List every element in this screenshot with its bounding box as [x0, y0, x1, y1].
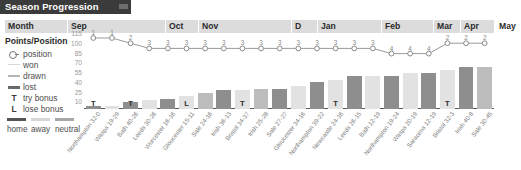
position-point-marker — [165, 46, 170, 51]
venue-label-neutral: neutral — [55, 125, 80, 134]
position-point-marker — [91, 36, 96, 41]
month-label: Feb — [385, 20, 400, 33]
position-point-marker — [370, 46, 375, 51]
position-point-marker — [296, 46, 301, 51]
venue-label-away: away — [31, 125, 50, 134]
position-value-label: 3 — [371, 39, 375, 46]
venue-key: homeawayneutral — [5, 118, 83, 135]
position-value-label: 3 — [241, 39, 245, 46]
position-value-label: 3 — [352, 39, 356, 46]
month-cell-feb: Feb — [381, 20, 434, 33]
month-label: Month — [8, 20, 34, 33]
position-point-marker — [464, 41, 469, 46]
month-label: May — [499, 20, 516, 33]
legend-item-won: won — [5, 60, 83, 70]
position-value-label: 2 — [129, 34, 133, 41]
legend-item-drawn: drawn — [5, 71, 83, 81]
position-point-marker — [352, 46, 357, 51]
position-value-label: 2 — [464, 34, 468, 41]
y-axis-tick-label: 25 — [75, 89, 82, 96]
y-axis-tick-label: 115 — [71, 31, 82, 38]
y-axis-tick-label: 40 — [75, 80, 82, 87]
position-point-marker — [389, 51, 394, 56]
month-cell-month: Month — [5, 20, 67, 33]
month-cell-oct: Oct — [165, 20, 199, 33]
position-point-marker — [259, 46, 264, 51]
position-value-label: 1 — [92, 29, 96, 36]
title-bar-nub — [119, 4, 128, 9]
position-value-label: 3 — [278, 39, 282, 46]
position-value-label: 4 — [427, 45, 431, 52]
bonus-glyph-L: L — [7, 104, 21, 114]
position-point-marker — [203, 46, 208, 51]
position-point-marker — [445, 41, 450, 46]
month-label: Apr — [464, 20, 479, 33]
position-value-label: 3 — [166, 39, 170, 46]
month-cell-mar: Mar — [433, 20, 461, 33]
y-axis-tick-label: 55 — [75, 70, 82, 77]
position-line-series — [84, 34, 494, 109]
position-point-marker — [426, 51, 431, 56]
line-won-swatch-icon — [8, 64, 20, 65]
x-axis-labels: Northampton 32-0Wasps 19-29Bath 40-26Lee… — [84, 110, 494, 170]
legend-item-label: won — [23, 60, 38, 70]
bonus-glyph-T: T — [7, 93, 21, 103]
legend-item-try-bonus: Ttry bonus — [5, 93, 83, 103]
position-value-label: 4 — [390, 45, 394, 52]
y-axis-tick-label: 100 — [71, 40, 82, 47]
position-value-label: 3 — [147, 39, 151, 46]
y-axis-tick-label: 85 — [75, 50, 82, 57]
position-point-marker — [408, 51, 413, 56]
position-value-label: 3 — [185, 39, 189, 46]
venue-label-home: home — [7, 125, 27, 134]
position-value-label: 3 — [222, 39, 226, 46]
position-value-label: 3 — [334, 39, 338, 46]
position-point-marker — [482, 41, 487, 46]
position-point-marker — [184, 46, 189, 51]
month-label: Mar — [437, 20, 452, 33]
month-cell-nov: Nov — [198, 20, 292, 33]
page-title: Season Progression — [5, 1, 99, 12]
legend-item-label: position — [23, 49, 52, 59]
month-cell-jan: Jan — [317, 20, 382, 33]
position-point-marker — [277, 46, 282, 51]
venue-swatch-home — [7, 118, 26, 121]
position-value-label: 1 — [110, 29, 114, 36]
line-lost-swatch-icon — [8, 86, 20, 89]
chart-legend: Points/Position positionwondrawnlostTtry… — [5, 36, 83, 115]
position-point-marker — [240, 46, 245, 51]
month-label: Oct — [169, 20, 183, 33]
month-cell-d: D — [291, 20, 318, 33]
legend-item-lost: lost — [5, 82, 83, 92]
position-point-marker — [128, 41, 133, 46]
plot-area: 115100857055402510TTLTTT1123333333333333… — [84, 34, 494, 109]
position-value-label: 3 — [297, 39, 301, 46]
widget-title-bar: Season Progression — [0, 0, 131, 14]
position-point-marker — [110, 36, 115, 41]
legend-item-label: lost — [23, 82, 36, 92]
venue-swatch-away — [31, 118, 50, 121]
y-axis-tick-label: 10 — [75, 99, 82, 106]
legend-item-position: position — [5, 49, 83, 59]
legend-item-lose-bonus: Llose bonus — [5, 104, 83, 114]
month-label: Jan — [321, 20, 336, 33]
venue-swatch-neutral — [55, 118, 74, 121]
month-cell-apr: Apr — [460, 20, 496, 33]
position-value-label: 4 — [408, 45, 412, 52]
position-point-marker — [333, 46, 338, 51]
legend-item-label: drawn — [23, 71, 46, 81]
month-label: Nov — [202, 20, 218, 33]
position-point-marker — [315, 46, 320, 51]
position-value-label: 3 — [259, 39, 263, 46]
position-value-label: 2 — [446, 34, 450, 41]
position-value-label: 3 — [203, 39, 207, 46]
position-value-label: 3 — [315, 39, 319, 46]
y-axis-tick-label: 70 — [75, 60, 82, 67]
legend-item-label: lose bonus — [23, 104, 64, 114]
position-marker-icon — [9, 51, 17, 59]
position-value-label: 2 — [483, 34, 487, 41]
month-label: D — [295, 20, 301, 33]
line-drawn-swatch-icon — [8, 75, 20, 77]
legend-item-label: try bonus — [23, 93, 57, 103]
